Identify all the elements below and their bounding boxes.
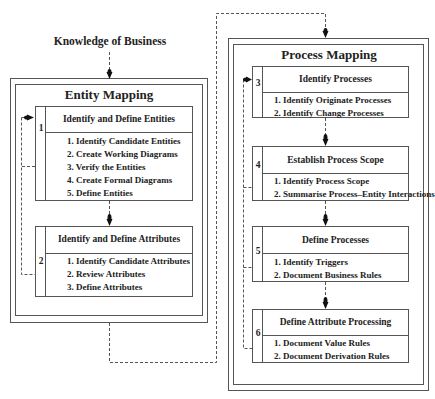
step-number: 2 bbox=[36, 256, 46, 266]
list-item: 2. Identify Change Processes bbox=[274, 107, 391, 120]
step-title: Define Processes bbox=[263, 235, 408, 245]
list-item: 2. Review Attributes bbox=[67, 268, 190, 281]
step-number: 4 bbox=[253, 160, 263, 170]
step-title: Identify Processes bbox=[263, 74, 408, 84]
list-item: 1. Identify Originate Processes bbox=[274, 94, 391, 107]
list-item: 3. Verify the Entities bbox=[67, 161, 181, 174]
list-item: 2. Document Business Rules bbox=[274, 269, 382, 282]
step-title: Define Attribute Processing bbox=[263, 317, 408, 327]
step-items: 1. Document Value Rules 2. Document Deri… bbox=[274, 337, 390, 363]
list-item: 2. Document Derivation Rules bbox=[274, 350, 390, 363]
list-item: 1. Identify Triggers bbox=[274, 256, 382, 269]
entity-mapping-title: Entity Mapping bbox=[16, 87, 202, 103]
list-item: 1. Identify Candidate Attributes bbox=[67, 255, 190, 268]
list-item: 1. Document Value Rules bbox=[274, 337, 390, 350]
step-title: Identify and Define Entities bbox=[46, 114, 192, 124]
step-items: 1. Identify Triggers 2. Document Busines… bbox=[274, 256, 382, 282]
list-item: 1. Identify Candidate Entities bbox=[67, 135, 181, 148]
knowledge-of-business-label: Knowledge of Business bbox=[40, 35, 180, 47]
list-item: 2. Summarise Process–Entity Interactions bbox=[274, 188, 435, 201]
step-number: 1 bbox=[36, 123, 46, 133]
list-item: 5. Define Entities bbox=[67, 187, 181, 200]
step-number: 3 bbox=[253, 78, 263, 88]
list-item: 1. Identify Process Scope bbox=[274, 175, 435, 188]
step-title: Identify and Define Attributes bbox=[46, 234, 192, 244]
list-item: 4. Create Formal Diagrams bbox=[67, 174, 181, 187]
list-item: 3. Define Attributes bbox=[67, 281, 190, 294]
step-items: 1. Identify Originate Processes 2. Ident… bbox=[274, 94, 391, 120]
step-title: Establish Process Scope bbox=[263, 155, 408, 165]
step-items: 1. Identify Process Scope 2. Summarise P… bbox=[274, 175, 435, 201]
step-items: 1. Identify Candidate Entities 2. Create… bbox=[67, 135, 181, 200]
step-number: 5 bbox=[253, 246, 263, 256]
process-mapping-title: Process Mapping bbox=[234, 47, 424, 63]
step-number: 6 bbox=[253, 328, 263, 338]
list-item: 2. Create Working Diagrams bbox=[67, 148, 181, 161]
step-items: 1. Identify Candidate Attributes 2. Revi… bbox=[67, 255, 190, 294]
